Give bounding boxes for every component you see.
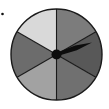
bullet-marker — [1, 13, 4, 16]
spinner-figure — [0, 0, 109, 109]
spinner-hub — [52, 50, 62, 60]
